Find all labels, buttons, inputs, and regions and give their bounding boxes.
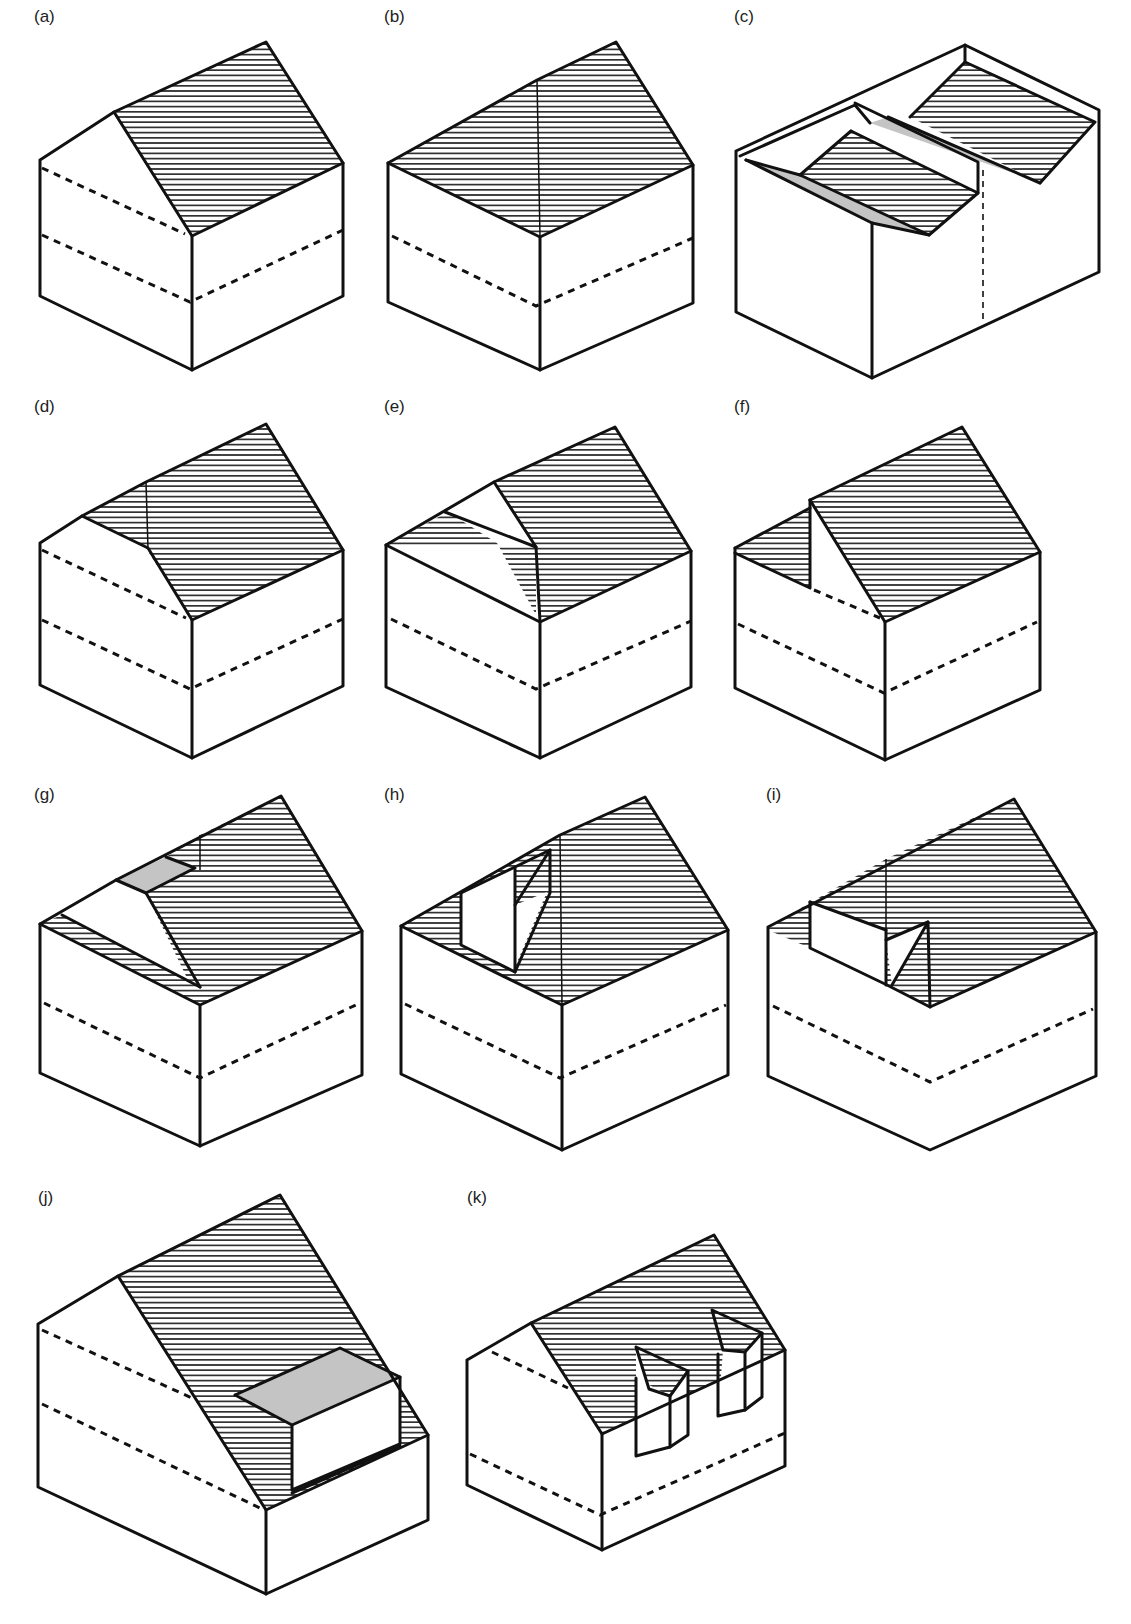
panel-i: (i) [766,785,1096,1150]
panel-j: (j) [38,1188,428,1594]
panel-label: (c) [734,7,754,26]
panel-label: (a) [34,7,55,26]
panel-b: (b) [384,7,693,370]
panel-label: (b) [384,7,405,26]
panel-h: (h) [384,785,728,1150]
panel-f: (f) [734,397,1040,760]
panels-group: (a)(b)(c)(d)(e)(f)(g)(h)(i)(j)(k) [34,7,1099,1594]
panel-a: (a) [34,7,343,370]
panel-c: (c) [734,7,1099,378]
panel-g: (g) [34,785,362,1146]
panel-label: (e) [384,397,405,416]
panel-d: (d) [34,397,343,758]
panel-label: (d) [34,397,55,416]
panel-label: (h) [384,785,405,804]
panel-label: (k) [467,1188,487,1207]
panel-label: (j) [38,1188,53,1207]
panel-label: (g) [34,785,55,804]
roof-types-figure: (a)(b)(c)(d)(e)(f)(g)(h)(i)(j)(k) [0,0,1131,1624]
panel-label: (i) [766,785,781,804]
panel-k: (k) [467,1188,785,1550]
panel-e: (e) [384,397,691,758]
panel-label: (f) [734,397,750,416]
